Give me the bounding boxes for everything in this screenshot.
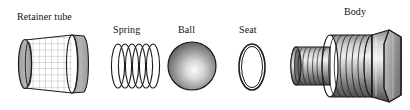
spring-graphic	[108, 42, 164, 90]
body-graphic	[288, 25, 408, 105]
ball-label: Ball	[178, 24, 195, 35]
body-label: Body	[344, 6, 366, 17]
retainer-tube-graphic	[14, 31, 94, 101]
spring-label: Spring	[113, 24, 140, 35]
retainer-tube-label: Retainer tube	[17, 11, 72, 22]
seat-label: Seat	[239, 24, 257, 35]
seat-graphic	[232, 42, 272, 92]
exploded-assembly-diagram: Retainer tube	[0, 0, 410, 110]
ball-graphic	[166, 40, 218, 92]
